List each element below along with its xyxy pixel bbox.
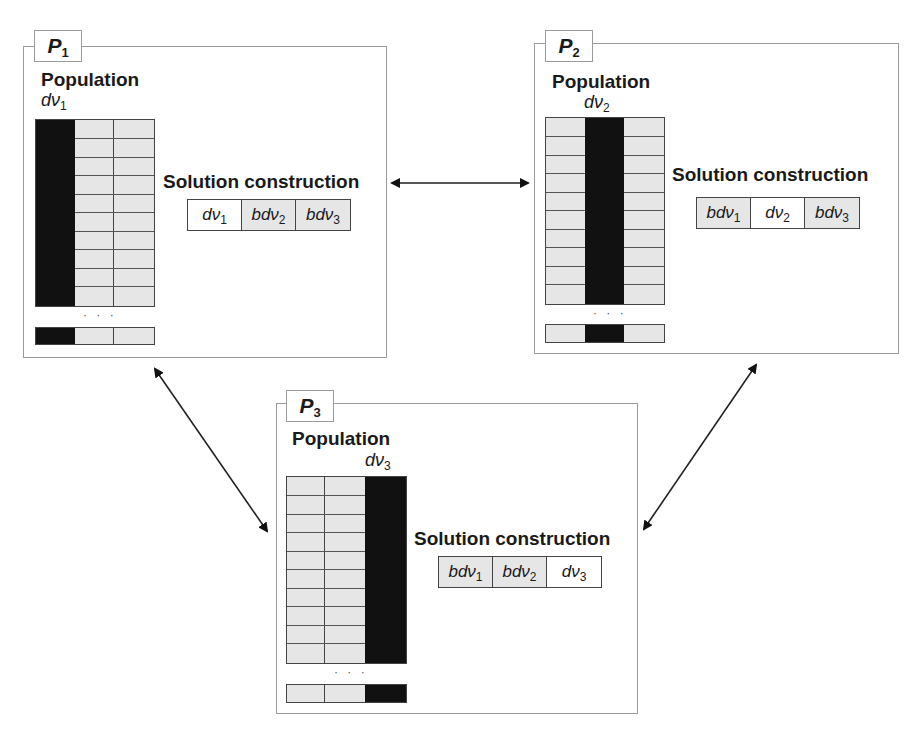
population-title: Population: [552, 71, 650, 93]
ellipsis: · · ·: [83, 308, 117, 322]
population-last-row: [286, 684, 407, 703]
solution-cell: dν3: [547, 557, 601, 587]
population-grid: [35, 119, 155, 307]
solution-vector: dν1 bdν2 bdν3: [187, 199, 351, 231]
population-title: Population: [292, 428, 390, 450]
arrow-p2-p3: [644, 365, 756, 529]
solution-construction-title: Solution construction: [672, 164, 868, 186]
panel-p1-tab: P1: [34, 30, 82, 62]
ellipsis: · · ·: [334, 665, 368, 679]
ellipsis: · · ·: [593, 306, 627, 320]
arrow-p1-p3: [155, 369, 267, 531]
solution-construction-title: Solution construction: [163, 171, 359, 193]
population-grid: [286, 476, 407, 664]
panel-p3-tab: P3: [286, 390, 334, 422]
population-variable: dν2: [584, 92, 610, 115]
panel-p2-tab: P2: [545, 30, 593, 62]
population-variable: dν3: [365, 450, 391, 473]
population-title: Population: [41, 69, 139, 91]
solution-cell: bdν1: [697, 198, 751, 228]
solution-construction-title: Solution construction: [414, 528, 610, 550]
solution-cell: bdν3: [805, 198, 859, 228]
population-variable: dν1: [41, 90, 67, 113]
solution-cell: bdν1: [439, 557, 493, 587]
solution-vector: bdν1 dν2 bdν3: [696, 197, 860, 229]
population-grid: [545, 117, 665, 305]
solution-cell: dν2: [751, 198, 805, 228]
solution-cell: bdν3: [296, 200, 350, 230]
population-last-row: [35, 327, 155, 345]
population-last-row: [545, 324, 665, 343]
solution-cell: dν1: [188, 200, 242, 230]
solution-cell: bdν2: [493, 557, 547, 587]
solution-vector: bdν1 bdν2 dν3: [438, 556, 602, 588]
solution-cell: bdν2: [242, 200, 296, 230]
